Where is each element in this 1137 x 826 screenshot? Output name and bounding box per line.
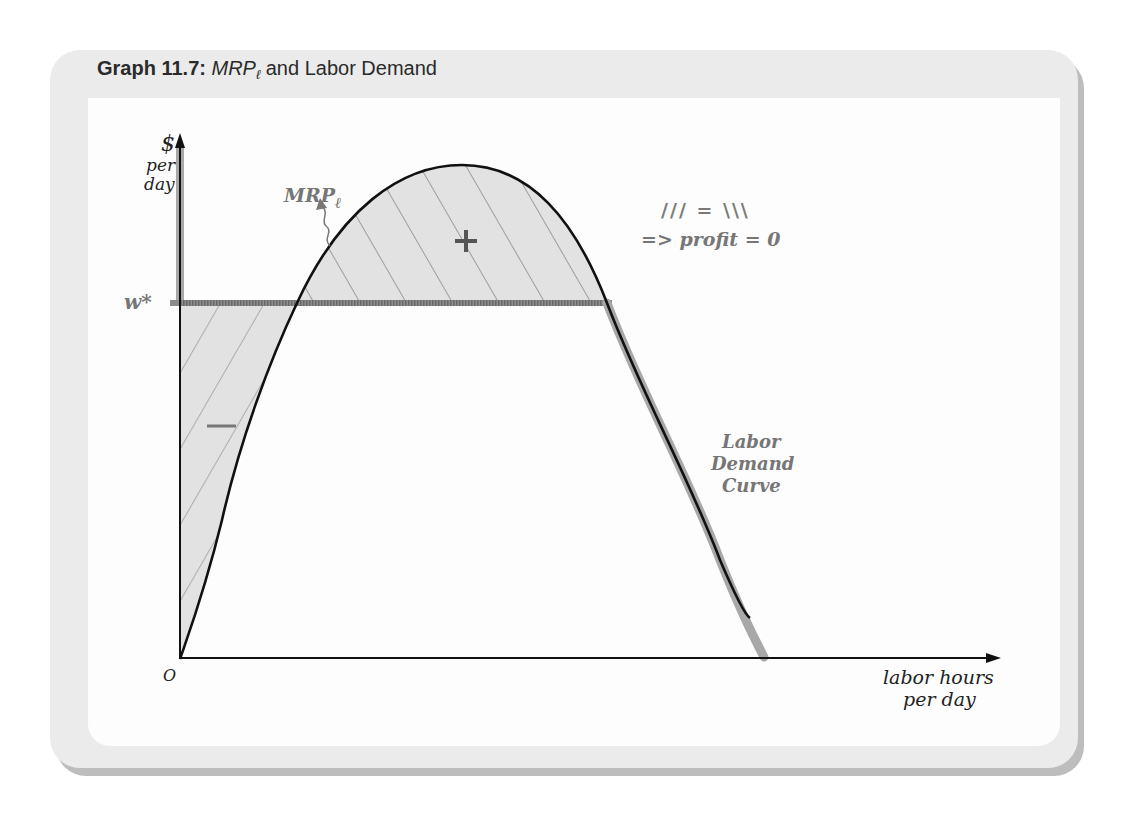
y-axis-arrow-icon: [175, 133, 185, 148]
origin-label: O: [163, 666, 176, 685]
y-label-day: day: [144, 174, 175, 194]
mrp-pointer: [322, 206, 330, 246]
profit-note: => profit = 0: [641, 228, 780, 250]
demand-label-line1: Labor: [722, 431, 780, 452]
equality-note: /// = \\\: [661, 199, 750, 221]
y-label-dollar: $: [161, 131, 175, 156]
x-label-line2: per day: [903, 688, 976, 710]
mrp-label-text: MRP: [284, 184, 335, 206]
x-label-line1: labor hours: [883, 666, 994, 688]
y-label-per: per: [146, 155, 175, 175]
gain-area: [297, 165, 607, 303]
mrp-label: MRPℓ: [284, 184, 342, 206]
x-axis-arrow-icon: [986, 653, 1001, 663]
demand-label-line3: Curve: [722, 475, 781, 496]
wage-label: w*: [124, 290, 152, 314]
mrp-label-sub: ℓ: [335, 194, 341, 212]
demand-label-line2: Demand: [711, 453, 794, 474]
